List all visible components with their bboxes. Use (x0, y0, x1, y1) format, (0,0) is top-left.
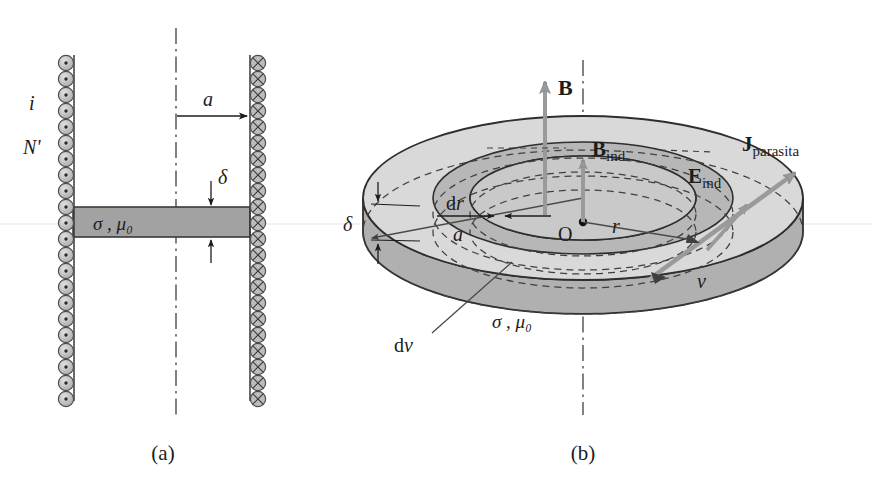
dot-circle-icon (58, 167, 73, 182)
dot-circle-icon (58, 135, 73, 150)
panel-a-caption: (a) (151, 441, 174, 465)
dot-circle-icon (58, 55, 73, 70)
origin-label: O (558, 223, 572, 245)
cross-circle-icon (250, 183, 265, 198)
dot-circle-icon (58, 103, 73, 118)
slab-material-label: σ , μ₀ (93, 213, 133, 234)
dot-circle-icon (58, 199, 73, 214)
dot-circle-icon (58, 87, 73, 102)
dot-circle-icon (58, 263, 73, 278)
cross-circle-icon (250, 359, 265, 374)
cross-circle-icon (250, 167, 265, 182)
dot-circle-icon (58, 375, 73, 390)
dot-circle-icon (58, 231, 73, 246)
radius-r-label: r (612, 215, 620, 237)
current-label: i (29, 92, 35, 114)
panel-b-radius-a-label: a (453, 223, 463, 245)
dot-circle-icon (58, 151, 73, 166)
cross-circle-icon (250, 327, 265, 342)
cross-circle-icon (250, 263, 265, 278)
cross-circle-icon (250, 343, 265, 358)
dot-circle-icon (58, 359, 73, 374)
physics-figure: σ , μ₀ (0, 0, 871, 493)
dot-circle-icon (58, 295, 73, 310)
dot-circle-icon (58, 183, 73, 198)
cross-circle-icon (250, 119, 265, 134)
dot-circle-icon (58, 391, 73, 406)
cross-circle-icon (250, 231, 265, 246)
dr-label: dr (446, 192, 464, 214)
cross-circle-icon (250, 87, 265, 102)
cross-circle-icon (250, 247, 265, 262)
cross-circle-icon (250, 199, 265, 214)
volume-label: v (697, 270, 706, 292)
panel-b-caption: (b) (571, 441, 596, 465)
cross-circle-icon (250, 71, 265, 86)
cross-circle-icon (250, 135, 265, 150)
cross-circle-icon (250, 311, 265, 326)
dot-circle-icon (58, 343, 73, 358)
dv-label: dv (394, 334, 413, 356)
cross-circle-icon (250, 103, 265, 118)
panel-b-thickness-label: δ (343, 213, 353, 235)
turns-label: N' (22, 136, 41, 158)
dot-circle-icon (58, 247, 73, 262)
panel-b-material-label: σ , μ₀ (492, 311, 532, 332)
dot-circle-icon (58, 215, 73, 230)
dot-circle-icon (58, 327, 73, 342)
cross-circle-icon (250, 215, 265, 230)
dot-circle-icon (58, 279, 73, 294)
figure-canvas: σ , μ₀ (0, 0, 871, 493)
radius-a-label: a (203, 88, 213, 110)
cross-circle-icon (250, 55, 265, 70)
cross-circle-icon (250, 391, 265, 406)
dot-circle-icon (58, 119, 73, 134)
B-field-label: B (558, 75, 573, 100)
thickness-delta-label: δ (218, 166, 228, 188)
cross-circle-icon (250, 295, 265, 310)
cross-circle-icon (250, 375, 265, 390)
cross-circle-icon (250, 151, 265, 166)
dot-circle-icon (58, 311, 73, 326)
dot-circle-icon (58, 71, 73, 86)
cross-circle-icon (250, 279, 265, 294)
